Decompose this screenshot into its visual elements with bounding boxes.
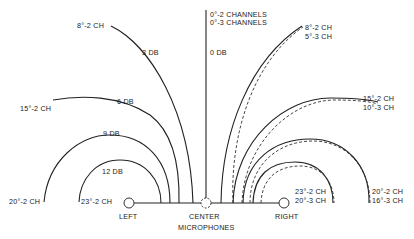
left-microphone xyxy=(124,198,134,208)
right-label-5deg-3ch: 5°-3 CH xyxy=(305,32,332,41)
right-label-10deg-3ch: 10°-3 CH xyxy=(363,103,394,112)
left-angle-label-23: 23°-2 CH xyxy=(81,197,112,206)
left-angle-label-15: 15°-2 CH xyxy=(20,104,51,113)
center-db-label: 0 DB xyxy=(210,48,227,57)
right-label-20deg-3ch: 20°-3 CH xyxy=(295,196,326,205)
right-label-8deg-2ch: 8°-2 CH xyxy=(305,23,332,32)
left-db-label-6: 6 DB xyxy=(117,97,134,106)
right-label-23deg-2ch: 23°-2 CH xyxy=(295,187,326,196)
left-db-label-9: 9 DB xyxy=(103,129,120,138)
right-label-15deg-2ch: 15°-2 CH xyxy=(363,94,394,103)
right-curve-5deg-3ch xyxy=(233,27,303,203)
microphone-stereo-diagram: LEFT CENTER RIGHT MICROPHONES 0°-2 CHANN… xyxy=(0,0,414,239)
left-curve-6db xyxy=(53,97,179,203)
left-db-label-3: 3 DB xyxy=(142,48,159,57)
right-mic-label: RIGHT xyxy=(275,212,299,221)
left-mic-label: LEFT xyxy=(119,212,138,221)
left-db-label-12: 12 DB xyxy=(102,167,123,176)
center-mic-label: CENTER xyxy=(189,212,220,221)
right-label-16deg-3ch: 16°-3 CH xyxy=(372,196,403,205)
left-angle-label-8: 8°-2 CH xyxy=(77,21,104,30)
right-label-20deg-2ch: 20°-2 CH xyxy=(372,187,403,196)
microphones-caption: MICROPHONES xyxy=(178,223,235,232)
left-angle-label-20: 20°-2 CH xyxy=(9,197,40,206)
center-label-3ch: 0°-3 CHANNELS xyxy=(210,18,267,27)
right-microphone xyxy=(279,198,289,208)
center-microphone xyxy=(201,198,211,208)
